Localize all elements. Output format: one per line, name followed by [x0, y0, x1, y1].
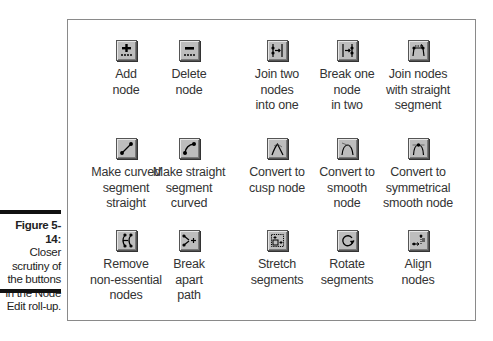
- break-apart-button[interactable]: Break apart path: [144, 230, 234, 304]
- to-curve-icon[interactable]: [179, 138, 200, 159]
- button-label: Break apart path: [144, 257, 234, 304]
- delete-node-button[interactable]: Delete node: [144, 40, 234, 98]
- cusp-node-icon[interactable]: [267, 138, 288, 159]
- join-straight-segment-icon[interactable]: [408, 40, 429, 61]
- align-nodes-icon[interactable]: [408, 230, 429, 251]
- symmetrical-node-button[interactable]: Convert to symmetrical smooth node: [373, 138, 463, 212]
- button-label: Make straight segment curved: [144, 165, 234, 212]
- caption-top-rule: [0, 210, 61, 214]
- add-node-icon[interactable]: [116, 40, 137, 61]
- caption-bottom-rule: [0, 289, 61, 293]
- smooth-node-icon[interactable]: [337, 138, 358, 159]
- auto-reduce-icon[interactable]: [116, 230, 137, 251]
- button-label: Join nodes with straight segment: [373, 67, 463, 114]
- delete-node-icon[interactable]: [179, 40, 200, 61]
- button-label: Delete node: [144, 67, 234, 98]
- figure-caption: Figure 5-14: Closer scrutiny of the butt…: [0, 219, 61, 314]
- node-edit-buttons-panel: Add node Delete node Join two nodes into…: [67, 19, 476, 321]
- to-curve-button[interactable]: Make straight segment curved: [144, 138, 234, 212]
- button-label: Convert to symmetrical smooth node: [373, 165, 463, 212]
- symmetrical-node-icon[interactable]: [408, 138, 429, 159]
- join-straight-segment-button[interactable]: Join nodes with straight segment: [373, 40, 463, 114]
- align-nodes-button[interactable]: Align nodes: [373, 230, 463, 288]
- break-apart-icon[interactable]: [179, 230, 200, 251]
- stretch-segments-icon[interactable]: [267, 230, 288, 251]
- figure-caption-title: Figure 5-14:: [0, 219, 61, 246]
- break-node-icon[interactable]: [337, 40, 358, 61]
- to-line-icon[interactable]: [116, 138, 137, 159]
- rotate-segments-icon[interactable]: [337, 230, 358, 251]
- figure-caption-body: Closer scrutiny of the buttons in the No…: [5, 246, 61, 312]
- join-nodes-icon[interactable]: [267, 40, 288, 61]
- button-label: Align nodes: [373, 257, 463, 288]
